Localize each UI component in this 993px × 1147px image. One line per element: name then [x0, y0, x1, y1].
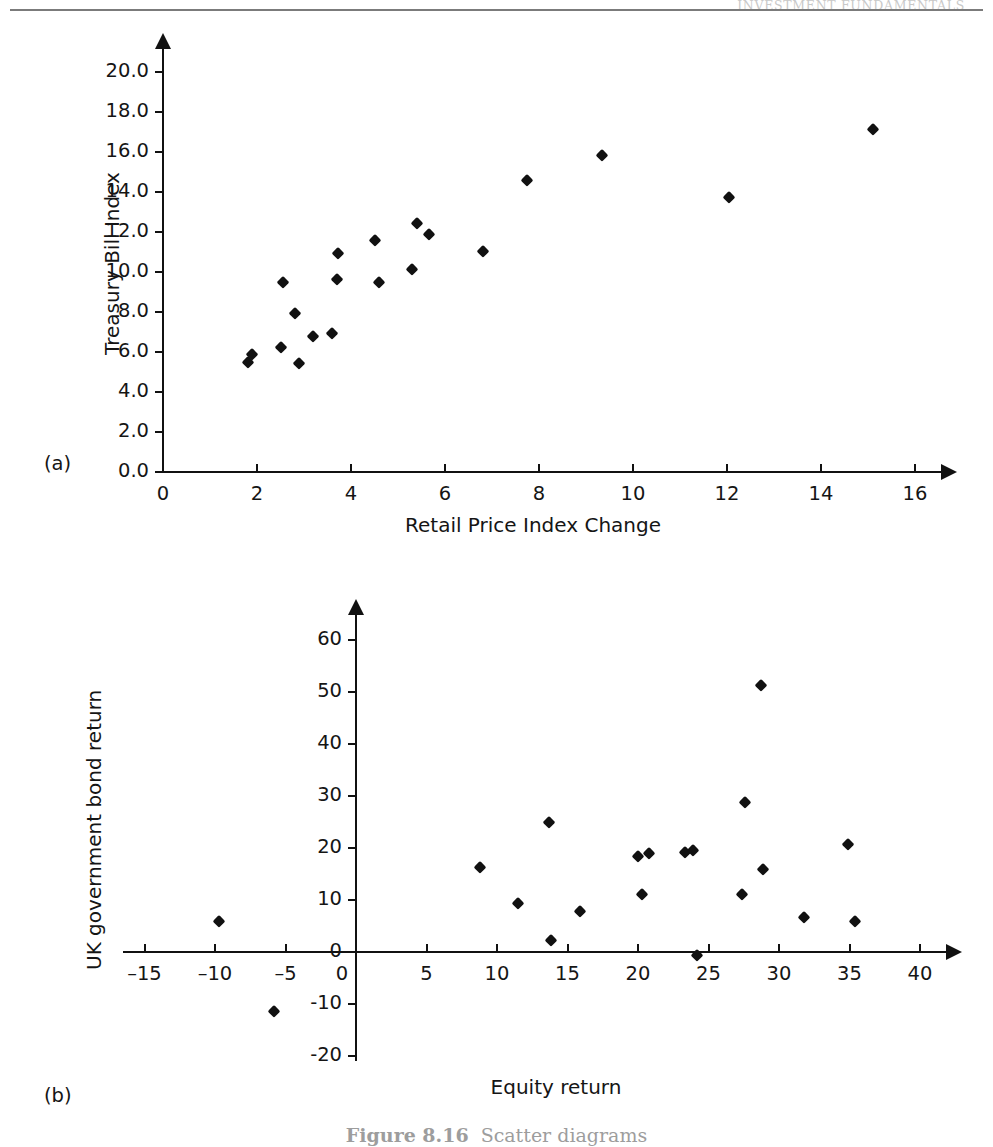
data-point	[849, 915, 861, 927]
data-point	[331, 273, 343, 285]
x-axis-tick	[914, 464, 916, 472]
x-axis-tick-label: –5	[256, 962, 316, 985]
y-axis-tick	[155, 71, 163, 73]
x-axis-tick	[708, 944, 710, 952]
figure-caption: Figure 8.16Scatter diagrams	[0, 1124, 993, 1146]
x-axis-tick	[444, 464, 446, 472]
y-axis-tick-label: 16.0	[71, 139, 149, 162]
data-point	[798, 911, 810, 923]
x-axis-tick-label: –10	[185, 962, 245, 985]
y-axis-tick-label: 8.0	[71, 299, 149, 322]
x-axis-tick	[778, 944, 780, 952]
y-axis-tick	[155, 431, 163, 433]
y-axis-tick	[348, 691, 356, 693]
x-axis-tick	[496, 944, 498, 952]
x-axis-tick-label: 15	[538, 962, 598, 985]
data-point	[474, 861, 486, 873]
x-axis-tick	[567, 944, 569, 952]
x-axis-tick	[350, 464, 352, 472]
data-point	[274, 341, 286, 353]
data-point	[326, 327, 338, 339]
scatter-chart-b: (b) UK government bond return Equity ret…	[0, 580, 993, 1120]
x-axis-tick	[538, 464, 540, 472]
scatter-chart-a: (a) Treasury Bill Index Retail Price Ind…	[0, 0, 993, 540]
data-point	[373, 276, 385, 288]
data-point	[423, 228, 435, 240]
data-point	[723, 191, 735, 203]
data-point	[406, 263, 418, 275]
x-axis-title-b: Equity return	[356, 1075, 756, 1099]
x-axis-tick	[426, 944, 428, 952]
x-axis-tick-label: 16	[885, 482, 945, 505]
x-axis-tick-label: 5	[397, 962, 457, 985]
x-axis-arrow-icon	[941, 464, 957, 480]
y-axis-tick	[348, 1003, 356, 1005]
data-point	[596, 149, 608, 161]
y-axis-line	[355, 614, 358, 1061]
data-point	[411, 217, 423, 229]
y-axis-tick-label: 10.0	[71, 259, 149, 282]
data-point	[755, 679, 767, 691]
data-point	[736, 888, 748, 900]
y-axis-tick-label: 20.0	[71, 59, 149, 82]
y-axis-arrow-icon	[155, 33, 171, 49]
x-axis-tick-label: 30	[749, 962, 809, 985]
data-point	[574, 905, 586, 917]
data-point	[867, 123, 879, 135]
y-axis-arrow-icon	[348, 599, 364, 615]
y-axis-tick-label: 20	[264, 835, 342, 858]
y-axis-tick	[348, 899, 356, 901]
y-axis-tick-label: 4.0	[71, 379, 149, 402]
y-axis-tick	[348, 639, 356, 641]
x-axis-tick	[632, 464, 634, 472]
y-axis-tick	[155, 111, 163, 113]
data-point	[477, 245, 489, 257]
y-axis-tick-label: 18.0	[71, 99, 149, 122]
x-axis-tick	[820, 464, 822, 472]
figure-page: INVESTMENT FUNDAMENTALS (a) Treasury Bil…	[0, 0, 993, 1147]
y-axis-tick-label: 6.0	[71, 339, 149, 362]
y-axis-tick	[155, 391, 163, 393]
figure-caption-text: Scatter diagrams	[481, 1124, 648, 1146]
x-axis-tick-label: 4	[321, 482, 381, 505]
x-axis-arrow-icon	[946, 944, 962, 960]
data-point	[289, 307, 301, 319]
data-point	[545, 934, 557, 946]
y-axis-tick-label: 0	[264, 939, 342, 962]
x-axis-tick-label: 35	[820, 962, 880, 985]
data-point	[643, 847, 655, 859]
y-axis-tick-label: 0.0	[71, 459, 149, 482]
data-point	[293, 357, 305, 369]
y-axis-tick	[348, 743, 356, 745]
data-point	[632, 850, 644, 862]
x-axis-tick	[919, 944, 921, 952]
data-point	[636, 888, 648, 900]
data-point	[543, 816, 555, 828]
x-axis-tick	[162, 464, 164, 472]
y-axis-tick-label: 2.0	[71, 419, 149, 442]
x-axis-line	[163, 471, 943, 474]
data-point	[368, 234, 380, 246]
y-axis-tick-label: 10	[264, 887, 342, 910]
x-axis-tick-label: 2	[227, 482, 287, 505]
y-axis-tick	[155, 351, 163, 353]
x-axis-tick-label: 14	[791, 482, 851, 505]
data-point	[332, 247, 344, 259]
y-axis-tick	[155, 231, 163, 233]
data-point	[307, 330, 319, 342]
x-axis-tick	[637, 944, 639, 952]
x-axis-tick-label: 10	[467, 962, 527, 985]
y-axis-tick	[155, 271, 163, 273]
x-axis-tick	[144, 944, 146, 952]
data-point	[512, 897, 524, 909]
y-axis-tick-label: 14.0	[71, 179, 149, 202]
data-point	[757, 863, 769, 875]
x-axis-tick-label: 8	[509, 482, 569, 505]
y-axis-title-b: UK government bond return	[82, 690, 106, 970]
x-axis-tick	[726, 464, 728, 472]
y-axis-tick-label: 60	[264, 627, 342, 650]
data-point	[687, 844, 699, 856]
figure-caption-label: Figure 8.16	[346, 1124, 469, 1146]
y-axis-tick	[155, 191, 163, 193]
x-axis-title-a: Retail Price Index Change	[163, 513, 903, 537]
